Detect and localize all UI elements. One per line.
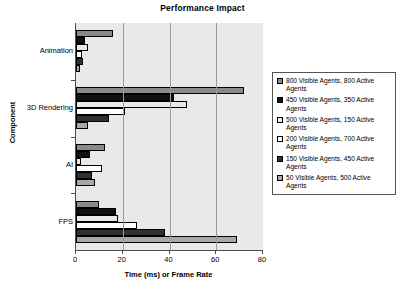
legend-label: 800 Visible Agents, 800 Active Agents <box>286 77 392 93</box>
bar <box>76 229 165 236</box>
bar <box>76 37 85 44</box>
legend-item: 450 Visible Agents, 350 Active Agents <box>276 96 392 112</box>
y-tick-label: 3D Rendering <box>27 103 73 112</box>
x-tick <box>169 250 170 254</box>
bar <box>76 44 88 51</box>
legend-label: 500 Visible Agents, 150 Active Agents <box>286 116 392 132</box>
legend-swatch-icon <box>277 117 283 123</box>
legend-label: 200 Visible Agents, 700 Active Agents <box>286 135 392 151</box>
bar <box>76 94 174 101</box>
gridline <box>170 23 171 250</box>
legend-swatch-icon <box>277 175 283 181</box>
y-tick-label: Animation <box>40 46 73 55</box>
x-tick-label: 20 <box>107 255 137 264</box>
legend-label: 450 Visible Agents, 350 Active Agents <box>286 96 392 112</box>
x-tick <box>262 250 263 254</box>
x-tick <box>215 250 216 254</box>
legend-label: 150 Visible Agents, 450 Active Agents <box>286 155 392 171</box>
y-axis-title: Component <box>8 83 17 163</box>
legend-label: 50 Visible Agents, 500 Active Agents <box>286 174 392 190</box>
y-tick-label: FPS <box>58 217 73 226</box>
plot-inner <box>76 23 263 250</box>
x-tick-label: 80 <box>247 255 277 264</box>
x-tick <box>75 250 76 254</box>
bar <box>76 115 109 122</box>
x-tick <box>122 250 123 254</box>
bar <box>76 222 137 229</box>
legend-item: 150 Visible Agents, 450 Active Agents <box>276 155 392 171</box>
chart-legend: 800 Visible Agents, 800 Active Agents450… <box>272 72 396 195</box>
plot-area <box>75 23 263 251</box>
y-tick <box>71 137 75 138</box>
chart-title: Performance Impact <box>0 3 405 13</box>
bar <box>76 65 80 72</box>
legend-swatch-icon <box>277 156 283 162</box>
bar <box>76 51 82 58</box>
chart-container: Performance Impact Component 020406080 A… <box>0 0 405 297</box>
bar <box>76 58 83 65</box>
gridline <box>123 23 124 250</box>
bar <box>76 87 244 94</box>
y-tick <box>71 80 75 81</box>
bar <box>76 236 237 243</box>
bar <box>76 165 102 172</box>
x-tick-label: 60 <box>200 255 230 264</box>
legend-swatch-icon <box>277 78 283 84</box>
bar <box>76 215 118 222</box>
x-tick-label: 0 <box>60 255 90 264</box>
bar <box>76 144 105 151</box>
bar <box>76 208 116 215</box>
y-tick <box>71 193 75 194</box>
legend-item: 800 Visible Agents, 800 Active Agents <box>276 77 392 93</box>
gridline <box>216 23 217 250</box>
bar <box>76 179 95 186</box>
legend-item: 50 Visible Agents, 500 Active Agents <box>276 174 392 190</box>
legend-item: 500 Visible Agents, 150 Active Agents <box>276 116 392 132</box>
legend-swatch-icon <box>277 97 283 103</box>
legend-swatch-icon <box>277 136 283 142</box>
bar <box>76 158 81 165</box>
legend-item: 200 Visible Agents, 700 Active Agents <box>276 135 392 151</box>
bar <box>76 30 113 37</box>
bar <box>76 108 125 115</box>
x-tick-label: 40 <box>154 255 184 264</box>
bar <box>76 151 90 158</box>
bar <box>76 201 99 208</box>
x-axis-title: Time (ms) or Frame Rate <box>75 270 262 279</box>
bar <box>76 122 88 129</box>
y-tick-label: AI <box>66 160 73 169</box>
bar <box>76 172 92 179</box>
